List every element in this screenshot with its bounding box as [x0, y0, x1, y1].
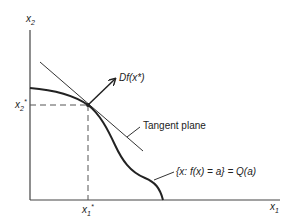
- tangent-leader: [127, 127, 140, 137]
- level-set-label: {x: f(x) = a} = Q(a): [176, 166, 256, 177]
- tangent-plane-label: Tangent plane: [143, 120, 206, 131]
- x1-star-label: x1*: [81, 203, 94, 217]
- x2-star-label: x2*: [14, 98, 27, 112]
- gradient-label: Df(x*): [119, 72, 145, 83]
- y-axis-label: x2: [25, 13, 35, 26]
- level-set-curve: [30, 88, 163, 200]
- tangent-point: [86, 103, 90, 107]
- level-set-leader: [154, 172, 174, 180]
- level-set-diagram: x2 x1 x2* x1* Df(x*) Tangent plane {x: f…: [0, 0, 293, 222]
- x-axis-label: x1: [269, 201, 279, 214]
- gradient-arrow: [88, 79, 115, 105]
